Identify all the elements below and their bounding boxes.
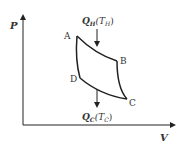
point-label-c: C <box>129 98 136 108</box>
y-axis-label: P <box>9 20 18 31</box>
adiabat-BC <box>117 61 127 99</box>
point-label-d: D <box>70 74 77 84</box>
adiabat-DA <box>76 36 80 78</box>
heat-in-label: QH(TH) <box>82 16 114 27</box>
heat-out-label: QC(TC) <box>82 112 112 123</box>
x-axis-label: V <box>160 132 169 143</box>
point-label-a: A <box>63 31 71 41</box>
pv-diagram: P V A B C D QH(TH) QC(TC) <box>0 0 182 147</box>
isotherm-cold-CD <box>80 78 127 99</box>
point-label-b: B <box>120 56 127 66</box>
